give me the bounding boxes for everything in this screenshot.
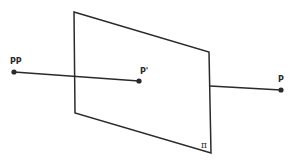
point-p-marker (278, 87, 283, 92)
point-p-prime-label: P' (140, 67, 148, 76)
point-pp-marker (11, 69, 16, 74)
picture-plane (74, 12, 211, 153)
plane-pi-label: π (201, 140, 207, 150)
projection-diagram: PP P' P π (0, 0, 294, 165)
projection-ray-plane-to-p (210, 86, 281, 90)
point-p-prime-marker (136, 78, 141, 83)
diagram-svg: PP P' P π (0, 0, 294, 165)
projection-ray-pp-to-p-prime (14, 72, 139, 81)
point-pp-label: PP (10, 57, 22, 66)
point-p-label: P (278, 75, 284, 84)
